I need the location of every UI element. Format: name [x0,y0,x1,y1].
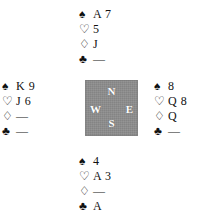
diamond-icon: ♢ [154,109,167,124]
spade-icon: ♠ [79,7,92,22]
diamond-icon: ♢ [79,37,92,52]
hand-north-hearts-row: ♡ 5 [79,22,112,37]
hand-south-diamonds-row: ♢ — [79,184,112,199]
hand-east-diamonds-row: ♢ Q [154,109,187,124]
heart-icon: ♡ [79,22,92,37]
hand-south: ♠ 4 ♡ A 3 ♢ — ♣ A [79,154,112,214]
spade-icon: ♠ [154,79,167,94]
hand-east-clubs-row: ♣ — [154,124,187,139]
hand-east-spades-row: ♠ 8 [154,79,187,94]
compass-label-south: S [85,118,138,129]
hand-north-spades-row: ♠ A 7 [79,7,112,22]
hand-west: ♠ K 9 ♡ J 6 ♢ — ♣ — [2,79,35,139]
compass-box: N W E S [85,80,138,136]
club-icon: ♣ [154,124,167,139]
hand-west-clubs-row: ♣ — [2,124,35,139]
hand-south-clubs-row: ♣ A [79,199,112,214]
compass-label-north: N [85,86,138,97]
hand-north-diamonds: J [92,37,98,52]
hand-north-clubs: — [92,52,106,67]
bridge-hand-diagram: ♠ A 7 ♡ 5 ♢ J ♣ — ♠ K 9 ♡ J 6 ♢ — ♣ [0,0,197,218]
heart-icon: ♡ [2,94,15,109]
hand-south-hearts-row: ♡ A 3 [79,169,112,184]
spade-icon: ♠ [79,154,92,169]
hand-north-diamonds-row: ♢ J [79,37,112,52]
hand-south-diamonds: — [92,184,106,199]
hand-south-clubs: A [92,199,102,214]
hand-east-hearts-row: ♡ Q 8 [154,94,187,109]
club-icon: ♣ [2,124,15,139]
hand-south-spades-row: ♠ 4 [79,154,112,169]
club-icon: ♣ [79,199,92,214]
hand-north: ♠ A 7 ♡ 5 ♢ J ♣ — [79,7,112,67]
compass-label-east: E [126,104,133,115]
hand-west-diamonds: — [15,109,29,124]
hand-north-hearts: 5 [92,22,100,37]
hand-west-hearts: J 6 [15,94,31,109]
hand-east: ♠ 8 ♡ Q 8 ♢ Q ♣ — [154,79,187,139]
hand-east-spades: 8 [167,79,175,94]
hand-west-hearts-row: ♡ J 6 [2,94,35,109]
hand-west-clubs: — [15,124,29,139]
hand-west-diamonds-row: ♢ — [2,109,35,124]
hand-north-clubs-row: ♣ — [79,52,112,67]
hand-east-clubs: — [167,124,181,139]
hand-east-hearts: Q 8 [167,94,187,109]
hand-south-spades: 4 [92,154,100,169]
spade-icon: ♠ [2,79,15,94]
diamond-icon: ♢ [79,184,92,199]
hand-south-hearts: A 3 [92,169,112,184]
hand-west-spades-row: ♠ K 9 [2,79,35,94]
heart-icon: ♡ [79,169,92,184]
compass-label-west: W [90,104,101,115]
hand-north-spades: A 7 [92,7,112,22]
hand-west-spades: K 9 [15,79,35,94]
hand-east-diamonds: Q [167,109,177,124]
heart-icon: ♡ [154,94,167,109]
club-icon: ♣ [79,52,92,67]
diamond-icon: ♢ [2,109,15,124]
